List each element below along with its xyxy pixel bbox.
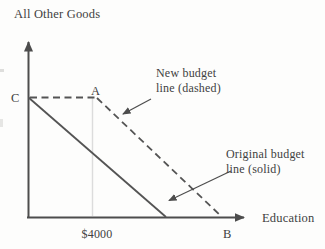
figure-canvas: All Other Goods Education $4000 C A B Ne… [0,0,325,249]
scan-artifact [0,119,3,127]
original-budget-annotation-line1: Original budget [226,147,305,161]
original-budget-line [29,98,167,218]
new-budget-arrow [123,99,151,114]
point-a-label: A [91,84,100,98]
new-budget-annotation-line2: line (dashed) [156,81,221,95]
original-budget-annotation-line2: line (solid) [226,162,281,176]
scan-artifact [0,69,4,72]
new-budget-line-sloped [97,98,222,217]
point-b-label: B [223,227,232,241]
y-axis-label: All Other Goods [14,7,100,21]
new-budget-annotation-line1: New budget [156,66,217,80]
x-axis-label: Education [262,211,315,225]
budget-line-figure: All Other Goods Education $4000 C A B Ne… [0,0,325,249]
x-tick-4000: $4000 [82,227,113,241]
point-c-label: C [11,91,20,105]
